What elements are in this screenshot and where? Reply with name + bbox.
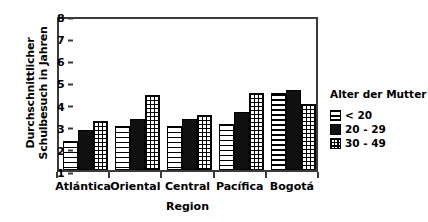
y-axis-tick-label: 1 [57,167,68,180]
x-axis-tick-mark [56,172,58,178]
y-axis-tick-label: 3 [57,122,68,135]
bar [145,95,160,170]
bar [182,119,197,170]
x-axis-tick-mark [108,172,110,178]
bar [130,119,145,170]
legend-item-label: < 20 [345,109,372,121]
y-axis-tick-label: 8 [57,12,68,25]
x-axis-tick-mark [213,172,215,178]
bar [286,90,301,170]
bar [78,130,93,170]
legend-item[interactable]: 30 - 49 [330,137,426,149]
bar-chart: Durchschnittlicher Schulbesuch in Jahren… [0,0,428,222]
legend-item[interactable]: < 20 [330,109,426,121]
bar [219,124,234,171]
bars-layer [59,19,316,170]
y-axis-title: Durchschnittlicher Schulbesuch in Jahren [24,8,50,178]
x-axis-tick-mark [160,172,162,178]
bar [115,126,130,170]
bar [301,104,316,170]
bar [271,93,286,171]
legend-swatch-cross-hatch [330,138,341,149]
y-axis-tick-mark [68,83,73,85]
bar-group [115,19,160,170]
y-axis-tick-label: 4 [57,100,68,113]
y-axis-tick-mark [68,39,73,41]
bar [93,121,108,170]
legend-item-label: 20 - 29 [345,123,386,135]
bar-group [167,19,212,170]
y-axis-tick-label: 6 [57,56,68,69]
plot-area [57,17,318,172]
legend-items: < 2020 - 2930 - 49 [330,109,426,149]
bar-group [271,19,316,170]
bar-group [219,19,264,170]
y-axis-tick-label: 7 [57,34,68,47]
bar-group [63,19,108,170]
legend: Alter der Mutter < 2020 - 2930 - 49 [330,88,426,151]
x-axis-category-label: Bogotá [252,180,332,193]
legend-swatch-horizontal-stripes [330,110,341,121]
bar [167,126,182,170]
y-axis-tick-mark [68,128,73,130]
y-axis-tick-mark [68,150,73,152]
legend-item-label: 30 - 49 [345,137,386,149]
x-axis-tick-mark [317,172,319,178]
y-axis-tick-mark [68,172,73,174]
bar [249,93,264,171]
legend-item[interactable]: 20 - 29 [330,123,426,135]
x-axis-tick-mark [265,172,267,178]
x-axis-title: Region [57,200,318,213]
y-axis-tick-mark [68,61,73,63]
y-axis-tick-label: 2 [57,144,68,157]
y-axis-tick-label: 5 [57,78,68,91]
y-axis-tick-mark [68,17,73,19]
legend-swatch-solid-black [330,124,341,135]
bar [197,115,212,170]
legend-title: Alter der Mutter [330,88,426,100]
bar [234,112,249,170]
y-axis-tick-mark [68,106,73,108]
